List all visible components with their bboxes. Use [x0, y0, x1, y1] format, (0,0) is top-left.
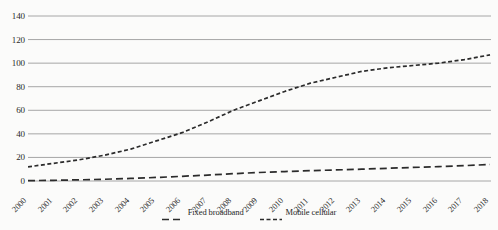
y-axis-tick-label: 40	[1, 129, 25, 138]
y-axis-tick-label: 60	[1, 106, 25, 115]
chart-legend: Fixed broadbandMobile cellular	[0, 208, 498, 217]
gridlines	[28, 16, 491, 181]
y-axis-tick-label: 120	[1, 35, 25, 44]
legend-item: Fixed broadband	[162, 208, 244, 217]
series-line	[28, 165, 490, 181]
line-chart: 020406080100120140 200020012002200320042…	[0, 0, 498, 230]
legend-label: Mobile cellular	[286, 208, 337, 217]
y-axis-tick-label: 20	[1, 153, 25, 162]
y-axis-tick-label: 80	[1, 82, 25, 91]
y-axis-tick-label: 100	[1, 59, 25, 68]
y-axis-tick-label: 140	[1, 12, 25, 21]
legend-item: Mobile cellular	[260, 208, 337, 217]
series-lines	[28, 55, 490, 181]
legend-swatch	[260, 209, 282, 216]
series-line	[28, 55, 490, 167]
legend-swatch	[162, 209, 184, 216]
legend-label: Fixed broadband	[188, 208, 244, 217]
y-axis-tick-label: 0	[1, 177, 25, 186]
